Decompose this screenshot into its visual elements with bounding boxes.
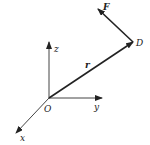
y-axis-label: y <box>93 102 100 112</box>
vector-r-label: r <box>85 60 91 70</box>
force-vector-F <box>98 9 133 42</box>
vector-diagram: z y x O r F D <box>0 0 150 145</box>
point-D-label: D <box>135 38 143 48</box>
diagram-svg: z y x O r F D <box>0 0 150 145</box>
origin-label: O <box>44 104 52 114</box>
x-axis-label: x <box>20 133 25 143</box>
position-vector-r <box>49 42 133 98</box>
vector-F-label: F <box>102 2 110 12</box>
z-axis-label: z <box>53 44 59 54</box>
